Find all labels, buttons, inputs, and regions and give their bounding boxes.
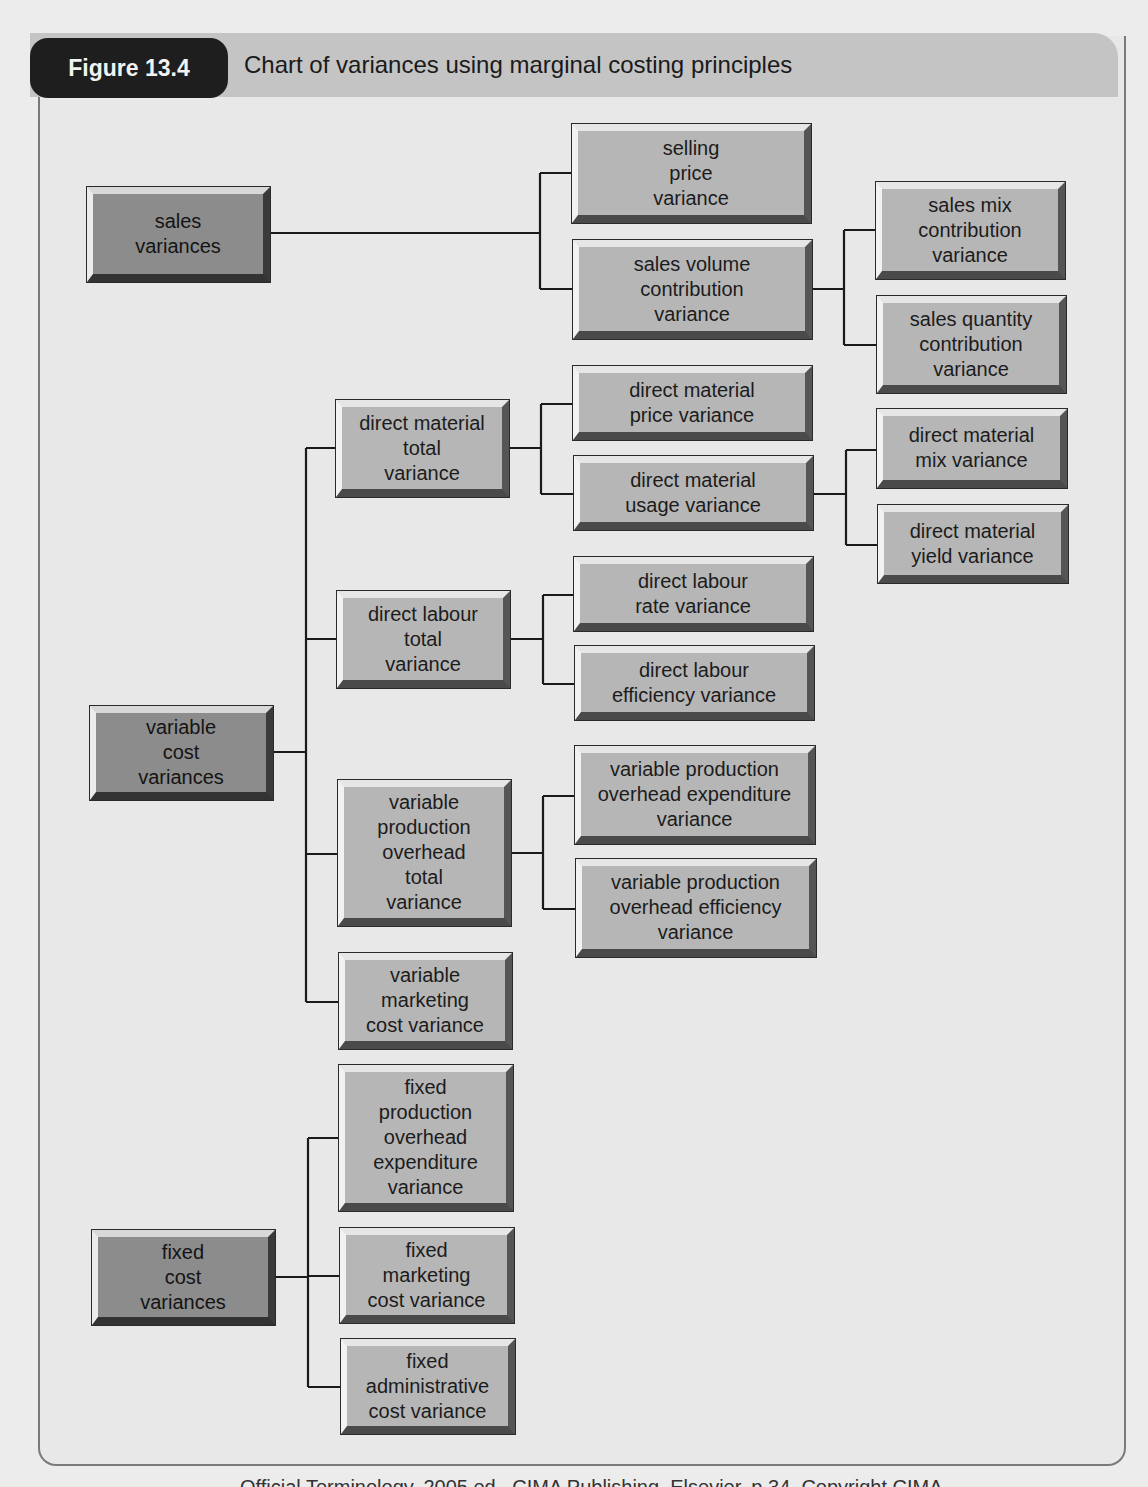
node-label: direct material price variance xyxy=(579,373,805,432)
node-label: sales variances xyxy=(93,194,263,274)
node-label: direct labour efficiency variance xyxy=(581,653,807,712)
figure-title: Chart of variances using marginal costin… xyxy=(244,50,792,80)
node-variable-cost-variances: variable cost variances xyxy=(89,705,274,801)
figure-page: Figure 13.4 Chart of variances using mar… xyxy=(0,0,1148,1487)
node-label: fixed cost variances xyxy=(98,1237,268,1317)
node-direct-material-mix-variance: direct material mix variance xyxy=(876,408,1068,489)
node-label: variable production overhead expenditure… xyxy=(581,753,808,836)
node-label: sales mix contribution variance xyxy=(882,189,1058,271)
node-label: direct material mix variance xyxy=(883,416,1060,480)
node-fixed-marketing-cost-variance: fixed marketing cost variance xyxy=(339,1227,515,1324)
node-label: fixed marketing cost variance xyxy=(346,1235,507,1315)
node-direct-labour-rate-variance: direct labour rate variance xyxy=(573,556,814,632)
node-direct-material-usage-variance: direct material usage variance xyxy=(573,455,814,531)
figure-number-tag: Figure 13.4 xyxy=(30,38,228,98)
node-variable-production-overhead-total-variance: variable production overhead total varia… xyxy=(337,779,512,927)
node-label: selling price variance xyxy=(578,131,804,215)
node-direct-labour-total-variance: direct labour total variance xyxy=(336,590,511,689)
figure-source-caption: Official Terminology, 2005 ed., CIMA Pub… xyxy=(240,1474,943,1487)
node-label: direct material total variance xyxy=(342,407,502,489)
node-label: sales volume contribution variance xyxy=(579,247,805,331)
node-fixed-cost-variances: fixed cost variances xyxy=(91,1229,276,1326)
node-sales-volume-contribution-variance: sales volume contribution variance xyxy=(572,239,813,340)
node-label: variable production overhead total varia… xyxy=(344,787,504,918)
node-label: direct labour rate variance xyxy=(580,564,806,623)
node-label: variable cost variances xyxy=(96,713,266,792)
node-label: direct labour total variance xyxy=(343,598,503,680)
node-sales-mix-contribution-variance: sales mix contribution variance xyxy=(875,181,1066,280)
node-label: fixed administrative cost variance xyxy=(347,1346,508,1426)
node-direct-material-price-variance: direct material price variance xyxy=(572,365,813,441)
node-sales-variances: sales variances xyxy=(86,186,271,283)
node-variable-marketing-cost-variance: variable marketing cost variance xyxy=(338,952,513,1050)
node-label: sales quantity contribution variance xyxy=(883,303,1059,385)
node-label: direct material yield variance xyxy=(884,512,1061,575)
node-label: fixed production overhead expenditure va… xyxy=(345,1072,506,1203)
node-direct-material-yield-variance: direct material yield variance xyxy=(877,504,1069,584)
node-sales-quantity-contribution-variance: sales quantity contribution variance xyxy=(876,295,1067,394)
node-fixed-production-overhead-expenditure-variance: fixed production overhead expenditure va… xyxy=(338,1064,514,1212)
node-direct-material-total-variance: direct material total variance xyxy=(335,399,510,498)
node-fixed-administrative-cost-variance: fixed administrative cost variance xyxy=(340,1338,516,1435)
node-label: variable production overhead efficiency … xyxy=(582,866,809,949)
node-variable-production-overhead-efficiency-variance: variable production overhead efficiency … xyxy=(575,858,817,958)
node-selling-price-variance: selling price variance xyxy=(571,123,812,224)
node-variable-production-overhead-expenditure-variance: variable production overhead expenditure… xyxy=(574,745,816,845)
node-direct-labour-efficiency-variance: direct labour efficiency variance xyxy=(574,645,815,721)
node-label: variable marketing cost variance xyxy=(345,960,505,1041)
node-label: direct material usage variance xyxy=(580,463,806,522)
